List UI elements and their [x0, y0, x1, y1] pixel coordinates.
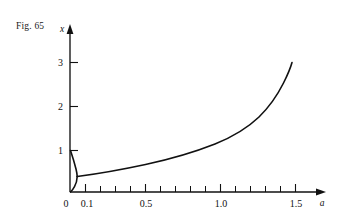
curve-fold-upper-arc	[71, 151, 78, 177]
curve-upper-branch	[77, 63, 292, 177]
y-tick-label-3: 3	[58, 57, 63, 68]
curve-fold-lower-arc	[71, 177, 78, 193]
figure-root: Fig. 65	[0, 0, 341, 217]
plot-canvas: 1 2 3 0 0.1 0.5 1.0 1.5 x a	[0, 0, 341, 217]
y-tick-group	[70, 63, 78, 151]
x-tick-label-1.5: 1.5	[290, 198, 303, 209]
y-tick-label-2: 2	[58, 101, 63, 112]
y-tick-label-1: 1	[58, 145, 63, 156]
y-tick-label-group: 1 2 3	[58, 57, 63, 156]
x-axis-label: a	[320, 198, 325, 208]
x-tick-label-group: 0 0.1 0.5 1.0 1.5	[64, 198, 303, 209]
axes-group	[67, 24, 326, 195]
x-axis-arrow-icon	[316, 189, 326, 196]
curve-group	[71, 63, 293, 193]
y-axis-label: x	[59, 24, 65, 34]
x-tick-group	[86, 184, 296, 192]
x-tick-label-0: 0	[64, 198, 69, 209]
x-tick-label-0.1: 0.1	[81, 198, 94, 209]
x-tick-label-1.0: 1.0	[215, 198, 228, 209]
y-axis-arrow-icon	[67, 24, 74, 34]
x-tick-label-0.5: 0.5	[140, 198, 153, 209]
